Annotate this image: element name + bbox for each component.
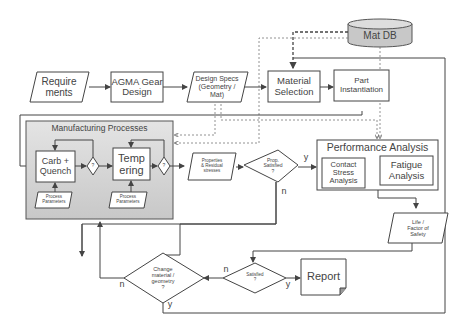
prop-n-label: n bbox=[279, 187, 289, 197]
prop-y-label: y bbox=[301, 153, 311, 163]
contact-stress-label: Contact Stress Analysis bbox=[322, 158, 365, 188]
change-label: Change material / geometry ? bbox=[138, 256, 188, 300]
requirements-label: Require ments bbox=[33, 72, 85, 102]
design-specs-label: Design Specs (Geometry / Mat) bbox=[189, 72, 245, 102]
change-y-label: y bbox=[165, 300, 175, 310]
properties-label: Properties & Residual stresses bbox=[189, 153, 235, 180]
sat-y-label: y bbox=[283, 280, 293, 290]
process-params-1-label: Process Parameters bbox=[36, 192, 72, 208]
small-diamond-2-label: ? bbox=[158, 160, 170, 172]
tempering-label: Temp ering bbox=[113, 148, 150, 180]
process-params-2-label: Process Parameters bbox=[110, 192, 146, 208]
life-label: Life / Factor of Safety bbox=[391, 213, 445, 243]
report-label: Report bbox=[301, 259, 346, 293]
fatigue-label: Fatigue Analysis bbox=[380, 156, 433, 185]
prop-satisfied-label: Prop. Satisfied ? bbox=[256, 152, 290, 180]
carb-quench-label: Carb + Quench bbox=[36, 151, 75, 182]
change-n-label: n bbox=[117, 280, 127, 290]
manufacturing-title: Manufacturing Processes bbox=[26, 123, 173, 135]
agma-label: AGMA Gear Design bbox=[111, 72, 163, 102]
performance-title: Performance Analysis bbox=[317, 140, 438, 156]
sat-n-label: n bbox=[221, 265, 231, 275]
mat-db-dashed-links bbox=[293, 32, 348, 68]
mat-db-label: Mat DB bbox=[348, 26, 412, 44]
small-diamond-1-label: ? bbox=[87, 160, 99, 172]
part-instantiation-label: Part Instantiation bbox=[334, 70, 389, 101]
material-selection-label: Material Selection bbox=[268, 71, 320, 102]
satisfied-label: Satisfied ? bbox=[235, 269, 275, 287]
